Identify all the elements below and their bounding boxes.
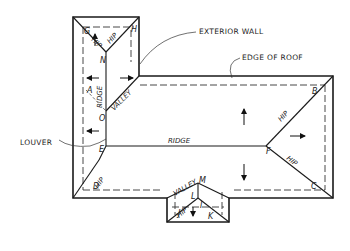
hip-label-H: HIP bbox=[106, 31, 120, 45]
hip-label-G: HIP bbox=[90, 36, 104, 50]
point-label-D: D bbox=[93, 182, 99, 191]
point-label-H: H bbox=[131, 25, 137, 34]
louver-callout: LOUVER bbox=[20, 138, 52, 147]
point-label-G: G bbox=[84, 27, 90, 36]
valley-label-O: VALLEY bbox=[110, 88, 134, 112]
hip-label-C: HIP bbox=[285, 154, 300, 168]
hip-D bbox=[73, 160, 99, 198]
exterior-wall-outline bbox=[73, 17, 333, 222]
exterior-wall-leader bbox=[140, 32, 196, 64]
point-label-O: O bbox=[99, 114, 105, 123]
exterior-wall-callout: EXTERIOR WALL bbox=[199, 27, 264, 36]
edge-of-roof-leader bbox=[230, 58, 240, 78]
roof-lines bbox=[73, 17, 333, 222]
point-label-B: B bbox=[312, 87, 318, 96]
point-label-I: I bbox=[200, 201, 203, 210]
hip-label-B: HIP bbox=[277, 109, 291, 123]
edge-of-roof-callout: EDGE OF ROOF bbox=[242, 53, 303, 62]
point-label-L: L bbox=[191, 192, 195, 201]
point-label-C: C bbox=[311, 182, 317, 191]
ridge-label-main: RIDGE bbox=[168, 137, 191, 145]
roof-plan-diagram: EXTERIOR WALL EDGE OF ROOF LOUVER HIP HI… bbox=[0, 0, 350, 251]
point-label-A: A bbox=[86, 86, 92, 95]
ridge-label-upper: RIDGE bbox=[96, 85, 104, 108]
point-label-M: M bbox=[199, 176, 206, 185]
point-label-F: F bbox=[266, 147, 271, 156]
point-label-K: K bbox=[208, 212, 214, 221]
point-label-N: N bbox=[100, 56, 106, 65]
